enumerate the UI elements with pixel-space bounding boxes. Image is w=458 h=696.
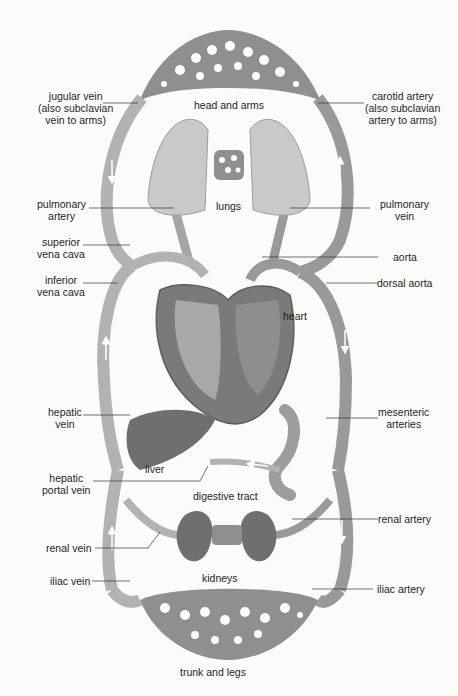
label-trunk-and-legs: trunk and legs [180, 666, 246, 678]
label-pulmonary-artery: pulmonary artery [37, 198, 86, 222]
head-capillary-bed [140, 30, 320, 100]
label-hepatic-vein: hepatic vein [48, 406, 82, 430]
liver [127, 410, 215, 470]
label-kidneys: kidneys [202, 572, 238, 584]
label-renal-artery: renal artery [378, 513, 431, 525]
label-lungs: lungs [216, 200, 241, 212]
label-digestive-tract: digestive tract [193, 490, 258, 502]
label-renal-vein: renal vein [46, 542, 92, 554]
label-head-and-arms: head and arms [194, 99, 264, 111]
dorsal-aorta-vessel [300, 272, 346, 470]
label-jugular-vein: jugular vein (also subclavian vein to ar… [38, 90, 113, 126]
kidneys [177, 511, 277, 561]
label-heart: heart [283, 310, 307, 322]
label-carotid-artery: carotid artery (also subclavian artery t… [365, 90, 440, 126]
label-aorta: aorta [393, 251, 417, 263]
label-mesenteric-arteries: mesenteric arteries [378, 406, 429, 430]
label-inferior-vena-cava: inferior vena cava [37, 274, 85, 298]
label-dorsal-aorta: dorsal aorta [377, 277, 432, 289]
trunk-capillary-bed [140, 589, 318, 660]
heart [156, 285, 293, 424]
label-iliac-artery: iliac artery [377, 583, 425, 595]
label-pulmonary-vein: pulmonary vein [380, 198, 429, 222]
label-superior-vena-cava: superior vena cava [37, 236, 85, 260]
label-hepatic-portal-vein: hepatic portal vein [42, 472, 90, 496]
label-liver: liver [145, 463, 164, 475]
label-iliac-vein: iliac vein [50, 575, 90, 587]
